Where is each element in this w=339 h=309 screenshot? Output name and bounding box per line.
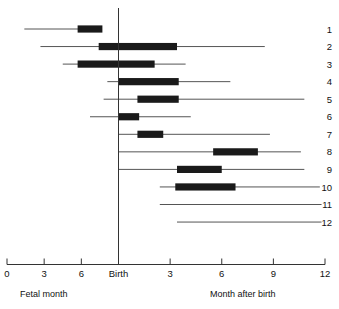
range-bar: [78, 61, 155, 68]
axis-tick-label-0: 0: [4, 268, 9, 279]
row-label-7: 7: [327, 129, 332, 140]
axis-tick-label-12: 12: [320, 268, 331, 279]
axis-tick-label-6: 6: [79, 268, 84, 279]
range-bar: [99, 43, 177, 50]
row-label-6: 6: [327, 111, 332, 122]
range-bar: [175, 183, 235, 190]
range-bar: [119, 113, 140, 120]
row-label-5: 5: [327, 94, 332, 105]
range-bar: [213, 148, 258, 155]
row-label-11: 11: [322, 199, 332, 210]
row-label-1: 1: [327, 24, 332, 35]
row-label-10: 10: [321, 182, 332, 193]
axis-tick-label-birth: Birth: [109, 268, 129, 279]
axis-label-month-after-birth: Month after birth: [210, 289, 276, 299]
axis-tick-label-3: 3: [167, 268, 172, 279]
row-label-8: 8: [327, 146, 332, 157]
range-bar: [78, 25, 103, 32]
row-label-4: 4: [327, 76, 332, 87]
row-label-2: 2: [327, 41, 332, 52]
range-bar: [177, 166, 222, 173]
range-chart: 036Birth36912 123456789101112 Fetal mont…: [0, 0, 339, 309]
axis-tick-label-9: 9: [271, 268, 276, 279]
range-bar: [119, 78, 179, 85]
row-label-9: 9: [327, 164, 332, 175]
range-bar: [137, 131, 163, 138]
axis-label-fetal-month: Fetal month: [20, 289, 68, 299]
range-bar: [137, 96, 178, 103]
chart-canvas: 036Birth36912 123456789101112 Fetal mont…: [0, 0, 339, 309]
axis-tick-label-3: 3: [42, 268, 47, 279]
axis-tick-label-6: 6: [219, 268, 224, 279]
row-label-3: 3: [327, 59, 332, 70]
row-label-12: 12: [321, 217, 332, 228]
